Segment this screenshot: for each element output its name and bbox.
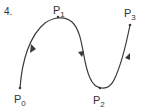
point-p3 [129, 24, 132, 27]
point-p0 [19, 87, 22, 90]
label-p0: P0 [14, 93, 26, 108]
figure-number: 4. [4, 6, 12, 17]
svg-text:P0: P0 [14, 93, 26, 108]
svg-text:P3: P3 [124, 7, 136, 22]
label-p2: P2 [93, 94, 105, 109]
point-p2 [99, 87, 102, 90]
point-p1 [57, 16, 60, 19]
curve-path [20, 18, 130, 88]
arrow-icon-segment-1 [30, 44, 36, 53]
label-p3: P3 [124, 7, 136, 22]
bezier-curve-diagram: 4. P0 P1 P2 P3 [0, 0, 146, 111]
arrow-icon-segment-3 [125, 53, 130, 60]
svg-text:P2: P2 [93, 94, 105, 109]
